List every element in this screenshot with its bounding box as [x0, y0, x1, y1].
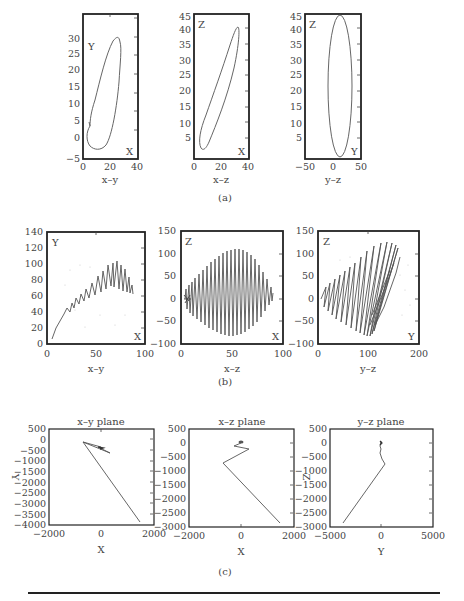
ytick: −5: [66, 153, 80, 164]
plot-c-xz: x–z plane 500 0 −500 −1000 −1500 −2000 −…: [140, 410, 300, 560]
plot-title: x–y plane: [77, 416, 124, 427]
xtick: −5000: [314, 530, 346, 541]
xtick: 0: [80, 161, 86, 172]
ytick: −2000: [154, 493, 186, 504]
ytick: 500: [28, 423, 46, 434]
ytick: −50: [156, 315, 176, 326]
ytick: 0: [180, 437, 186, 448]
ytick: 20: [68, 64, 80, 75]
ytick: 50: [302, 270, 314, 281]
x-axis-label: Y: [377, 546, 385, 557]
xtick: 0: [238, 530, 244, 541]
plot-c-yz-svg: y–z plane 500 0 −500 −1000 −1500 −2000 −…: [290, 410, 464, 560]
ytick: 40: [290, 24, 302, 35]
corner-label-x: Y: [407, 331, 415, 342]
ytick: −2500: [154, 507, 186, 518]
plot-a-xz: 45 40 35 30 25 20 15 10 5 0 20 40 Z X x–…: [160, 0, 280, 190]
plot-c-xy-svg: x–y plane 500 0 −500 −1000 −1500 −2000 −…: [0, 410, 160, 560]
ytick: 40: [31, 306, 43, 317]
ytick: 45: [179, 11, 191, 22]
x-axis-label: x–z: [224, 363, 240, 374]
plot-b-xz: 150 100 50 0 −50 −100 0 50 100 Z X x–z: [145, 215, 305, 375]
plot-a-yz: 45 40 35 30 25 20 15 10 5 −50 0 50 Z Y y…: [280, 0, 390, 190]
plot-c-yz: y–z plane 500 0 −500 −1000 −1500 −2000 −…: [290, 410, 464, 560]
x-axis-label: y–z: [359, 363, 376, 374]
caption-b: (b): [205, 376, 245, 387]
background-dots: [64, 264, 125, 327]
xtick: 50: [90, 348, 102, 359]
trajectory-curve: [343, 441, 385, 523]
ytick: 15: [290, 101, 302, 112]
ytick: 0: [170, 293, 176, 304]
ytick: 5: [74, 115, 80, 126]
corner-label-y: Y: [51, 237, 59, 248]
plot-b-yz: 150 100 50 0 −50 −100 0 100 200 Z Y y–z: [290, 215, 460, 375]
corner-label-y: Z: [198, 19, 205, 30]
xtick: 20: [104, 161, 116, 172]
plot-b-xz-svg: 150 100 50 0 −50 −100 0 50 100 Z X x–z: [145, 215, 305, 375]
corner-label-x: X: [272, 331, 280, 342]
y-axis-label: Y: [10, 473, 21, 481]
ytick: 0: [74, 132, 80, 143]
plot-b-xy-svg: 140 120 100 80 60 40 20 0 0 50 100 Y X x…: [0, 215, 160, 375]
ytick: 15: [68, 81, 80, 92]
xtick: 0: [178, 348, 184, 359]
x-axis-label: X: [237, 546, 245, 557]
ytick: 120: [25, 242, 43, 253]
ytick: 0: [321, 437, 327, 448]
x-axis-label: x–y: [88, 363, 105, 374]
xtick: 0: [98, 528, 104, 539]
corner-label-x: X: [134, 331, 142, 342]
corner-label-x: X: [126, 146, 134, 157]
xtick: 20: [215, 161, 227, 172]
xtick: 0: [315, 348, 321, 359]
trajectory-curve: [321, 242, 400, 336]
trajectory-curve: [200, 27, 239, 149]
ytick: 100: [158, 248, 176, 259]
ytick: 30: [179, 55, 191, 66]
xtick: −50: [295, 161, 315, 172]
ytick: 45: [290, 11, 302, 22]
ytick: 0: [37, 338, 43, 349]
ytick: 35: [179, 39, 191, 50]
ytick: −500: [160, 451, 186, 462]
corner-label-x: Y: [350, 146, 358, 157]
ytick: −50: [294, 315, 314, 326]
x-axis-label: y–z: [324, 174, 341, 185]
x-axis-label: X: [97, 544, 105, 555]
ytick: −100: [288, 338, 314, 349]
bottom-rule: [28, 592, 440, 594]
ytick: −2500: [14, 487, 46, 498]
ytick: 10: [68, 98, 80, 109]
ytick: −1000: [154, 465, 186, 476]
trajectory-origin-cluster: [239, 440, 244, 443]
xtick: 40: [131, 161, 143, 172]
ytick: −500: [301, 451, 327, 462]
x-axis-label: x–z: [213, 174, 229, 185]
ytick: 20: [179, 85, 191, 96]
ytick: −2500: [295, 507, 327, 518]
plot-c-xz-svg: x–z plane 500 0 −500 −1000 −1500 −2000 −…: [140, 410, 300, 560]
xtick: 0: [44, 348, 50, 359]
xtick: −2000: [173, 530, 205, 541]
ytick: 500: [168, 423, 186, 434]
ytick: −100: [150, 338, 176, 349]
ytick: 25: [290, 69, 302, 80]
xtick: 100: [359, 348, 377, 359]
ytick: 140: [25, 226, 43, 237]
ytick: −1500: [295, 479, 327, 490]
ytick: 60: [31, 290, 43, 301]
ytick: 500: [309, 423, 327, 434]
ytick: 20: [290, 85, 302, 96]
ytick: 40: [179, 24, 191, 35]
plot-a-yz-svg: 45 40 35 30 25 20 15 10 5 −50 0 50 Z Y y…: [280, 0, 390, 190]
xtick: 50: [355, 161, 367, 172]
caption-a: (a): [205, 192, 245, 203]
xtick: −2000: [33, 528, 65, 539]
ytick: 100: [296, 248, 314, 259]
trajectory-curve: [87, 37, 121, 149]
ytick: 25: [68, 48, 80, 59]
xtick: 5000: [421, 530, 445, 541]
trajectory-curve: [52, 261, 133, 339]
xtick: 200: [410, 348, 428, 359]
